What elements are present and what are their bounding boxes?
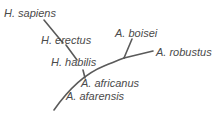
label-h-erectus: H. erectus [41, 34, 91, 46]
label-a-boisei: A. boisei [115, 27, 157, 39]
robustus-branch [124, 51, 153, 58]
label-a-robustus: A. robustus [156, 46, 212, 58]
phylogenetic-tree-diagram: H. sapiens H. erectus H. habilis A. bois… [0, 0, 223, 115]
label-a-africanus: A. africanus [81, 77, 139, 89]
label-h-sapiens: H. sapiens [4, 7, 56, 19]
boisei-branch [124, 39, 132, 58]
label-h-habilis: H. habilis [51, 56, 96, 68]
label-a-afarensis: A. afarensis [66, 90, 124, 102]
